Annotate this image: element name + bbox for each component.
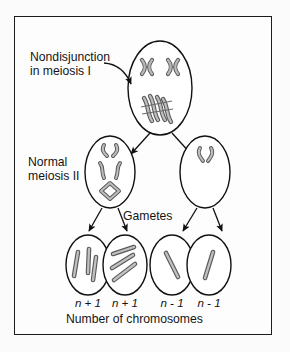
meiosis-II-cell-right-membrane [180, 136, 230, 208]
gamete-2 [103, 235, 147, 295]
meiosis-II-cell-right [180, 136, 230, 208]
meiosis-I-cell [128, 41, 192, 135]
label-normal-meiosis: Normal meiosis II [28, 155, 79, 184]
gamete-4-ploidy-label: n - 1 [186, 296, 232, 309]
figure-root: Nondisjunction in meiosis I Normal meios… [0, 0, 290, 352]
gamete-2-ploidy-label: n + 1 [102, 296, 148, 309]
gamete-4 [187, 235, 231, 295]
meiosis-II-arrow-1 [89, 208, 102, 231]
figure-caption: Number of chromosomes [66, 312, 203, 326]
meiosis-II-cell-left [85, 136, 135, 208]
meiosis-I-arrow-left [131, 133, 150, 154]
label-gametes: Gametes [123, 209, 172, 223]
label-nondisjunction: Nondisjunction in meiosis I [30, 50, 110, 79]
gamete-2-membrane [103, 235, 147, 295]
meiosis-II-arrow-4 [213, 208, 222, 231]
meiosis-II-arrow-3 [183, 208, 197, 231]
